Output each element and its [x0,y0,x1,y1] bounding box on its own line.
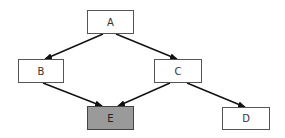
node-a-label: A [107,17,114,28]
node-c-label: C [175,66,182,77]
node-e-highlighted: E [87,106,134,130]
edge-a-to-c [116,34,177,59]
node-c: C [154,59,202,83]
node-d-label: D [242,113,250,124]
edge-c-to-d [187,83,245,107]
node-b: B [18,59,64,83]
node-a: A [87,10,134,34]
node-d: D [222,107,270,130]
edge-c-to-e [118,83,170,106]
node-b-label: B [38,66,45,77]
edge-a-to-b [45,34,103,59]
edge-b-to-e [43,83,102,106]
node-e-label: E [107,113,113,124]
